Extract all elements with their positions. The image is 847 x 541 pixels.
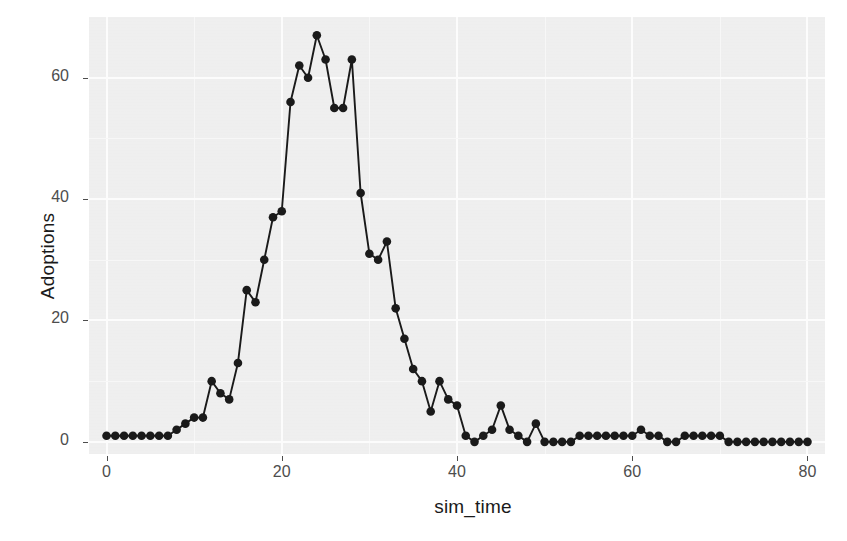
gridline-x-minor <box>194 17 195 454</box>
y-tick-mark <box>83 78 88 79</box>
x-tick-mark <box>282 456 283 461</box>
gridline-x-major <box>281 17 283 454</box>
gridline-x-minor <box>369 17 370 454</box>
gridline-y-minor <box>89 138 825 139</box>
gridline-x-major <box>456 17 458 454</box>
gridline-y-major <box>89 319 825 321</box>
y-tick-label: 0 <box>9 431 69 449</box>
y-tick-mark <box>83 199 88 200</box>
x-tick-label: 80 <box>777 463 837 481</box>
x-tick-label: 0 <box>77 463 137 481</box>
x-axis-title: sim_time <box>118 496 828 518</box>
x-tick-label: 20 <box>252 463 312 481</box>
gridline-x-minor <box>720 17 721 454</box>
gridline-x-major <box>106 17 108 454</box>
chart-figure: 0204060800204060 Adoptions sim_time <box>0 0 847 541</box>
plot-panel <box>89 17 825 454</box>
gridline-x-minor <box>545 17 546 454</box>
x-tick-label: 60 <box>602 463 662 481</box>
gridline-y-major <box>89 198 825 200</box>
y-axis-title: Adoptions <box>37 146 59 366</box>
y-tick-mark <box>83 442 88 443</box>
gridline-y-major <box>89 77 825 79</box>
y-tick-mark <box>83 320 88 321</box>
x-tick-mark <box>807 456 808 461</box>
x-tick-mark <box>632 456 633 461</box>
x-tick-mark <box>457 456 458 461</box>
gridline-x-major <box>806 17 808 454</box>
gridline-x-major <box>631 17 633 454</box>
gridline-y-major <box>89 441 825 443</box>
x-tick-label: 40 <box>427 463 487 481</box>
y-tick-label: 60 <box>9 67 69 85</box>
x-tick-mark <box>107 456 108 461</box>
gridline-y-minor <box>89 260 825 261</box>
gridline-y-minor <box>89 381 825 382</box>
